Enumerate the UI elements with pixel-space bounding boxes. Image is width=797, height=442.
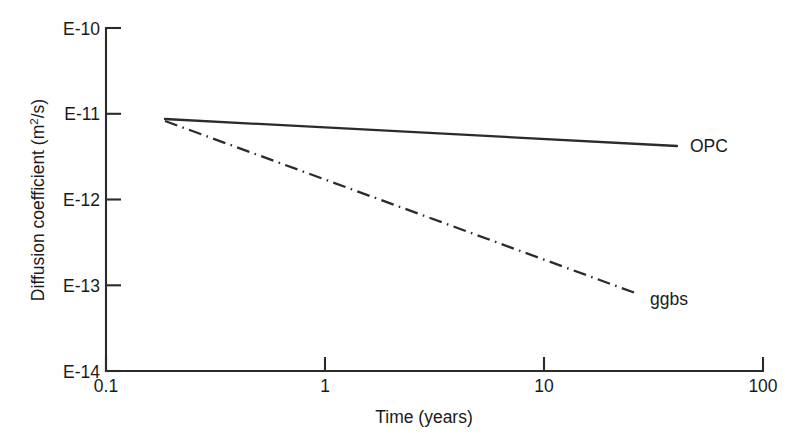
y-tick-label-e-12: E-12 [63,190,100,210]
series-label-opc: OPC [690,136,728,156]
y-axis-title: Diffusion coefficient (m2/s) [28,99,48,301]
x-tick-label-0-1: 0.1 [94,376,118,396]
axes [106,28,763,371]
y-axis-ticks [106,28,121,371]
y-tick-label-e-13: E-13 [63,276,100,296]
x-tick-label-100: 100 [748,376,777,396]
chart-svg: E-10 E-11 E-12 E-13 E-14 0.1 1 10 100 Ti… [0,0,797,442]
y-axis-title-main: Diffusion coefficient (m [28,125,48,301]
x-tick-label-10: 10 [534,376,554,396]
y-axis-tick-labels: E-10 E-11 E-12 E-13 E-14 [63,19,100,382]
svg-text:Diffusion coefficient (m2/s): Diffusion coefficient (m2/s) [28,99,48,301]
x-axis-ticks [106,357,763,371]
x-tick-label-1: 1 [320,376,330,396]
series-label-ggbs: ggbs [650,289,688,309]
series-labels: OPC ggbs [650,136,728,309]
x-axis-tick-labels: 0.1 1 10 100 [94,376,778,396]
y-axis-title-tail: /s) [28,99,48,118]
y-tick-label-e-10: E-10 [63,19,100,39]
series-line-ggbs [165,121,638,294]
series-line-opc [165,119,677,146]
data-series [165,119,677,294]
diffusion-coefficient-chart: E-10 E-11 E-12 E-13 E-14 0.1 1 10 100 Ti… [0,0,797,442]
y-tick-label-e-11: E-11 [64,104,100,124]
x-axis-title: Time (years) [375,407,473,427]
